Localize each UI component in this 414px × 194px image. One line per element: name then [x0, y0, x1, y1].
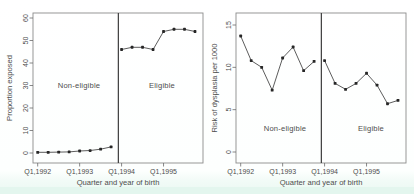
svg-text:15: 15	[225, 21, 232, 29]
annotation-eligible: Eligible	[358, 124, 384, 133]
dysplasia-chart-svg: Risk of dysplasia per 1000 Quarter and y…	[207, 0, 414, 194]
svg-text:10: 10	[22, 127, 29, 135]
svg-text:Q1,1993: Q1,1993	[269, 168, 296, 176]
svg-text:Q1,1993: Q1,1993	[66, 168, 93, 176]
svg-text:0: 0	[22, 151, 29, 155]
x-axis-title: Quarter and year of birth	[77, 178, 160, 187]
svg-text:Q1,1992: Q1,1992	[24, 168, 51, 176]
scan-tint-strip	[0, 187, 414, 194]
svg-text:Q1,1995: Q1,1995	[353, 168, 380, 176]
svg-text:Q1,1992: Q1,1992	[227, 168, 254, 176]
x-axis-title: Quarter and year of birth	[280, 178, 363, 187]
svg-text:Q1,1994: Q1,1994	[108, 168, 135, 176]
svg-text:20: 20	[22, 104, 29, 112]
svg-text:0: 0	[225, 150, 232, 154]
svg-text:50: 50	[22, 37, 29, 45]
annotation-non-eligible: Non-eligible	[58, 81, 101, 90]
annotation-non-eligible: Non-eligible	[264, 124, 307, 133]
dysplasia-panel: Risk of dysplasia per 1000 Quarter and y…	[207, 0, 414, 194]
svg-text:10: 10	[225, 63, 232, 71]
annotation-eligible: Eligible	[149, 81, 175, 90]
exposure-chart-svg: Proportion exposed Quarter and year of b…	[0, 0, 207, 194]
y-axis-title: Proportion exposed	[5, 55, 14, 121]
svg-text:40: 40	[22, 59, 29, 67]
svg-text:5: 5	[225, 108, 232, 112]
y-axis-title: Risk of dysplasia per 1000	[210, 43, 219, 132]
two-panel-chart-figure: Proportion exposed Quarter and year of b…	[0, 0, 414, 194]
svg-text:Q1,1994: Q1,1994	[311, 168, 338, 176]
svg-text:30: 30	[22, 82, 29, 90]
svg-text:Q1,1995: Q1,1995	[150, 168, 177, 176]
exposure-panel: Proportion exposed Quarter and year of b…	[0, 0, 207, 194]
svg-text:60: 60	[22, 14, 29, 22]
